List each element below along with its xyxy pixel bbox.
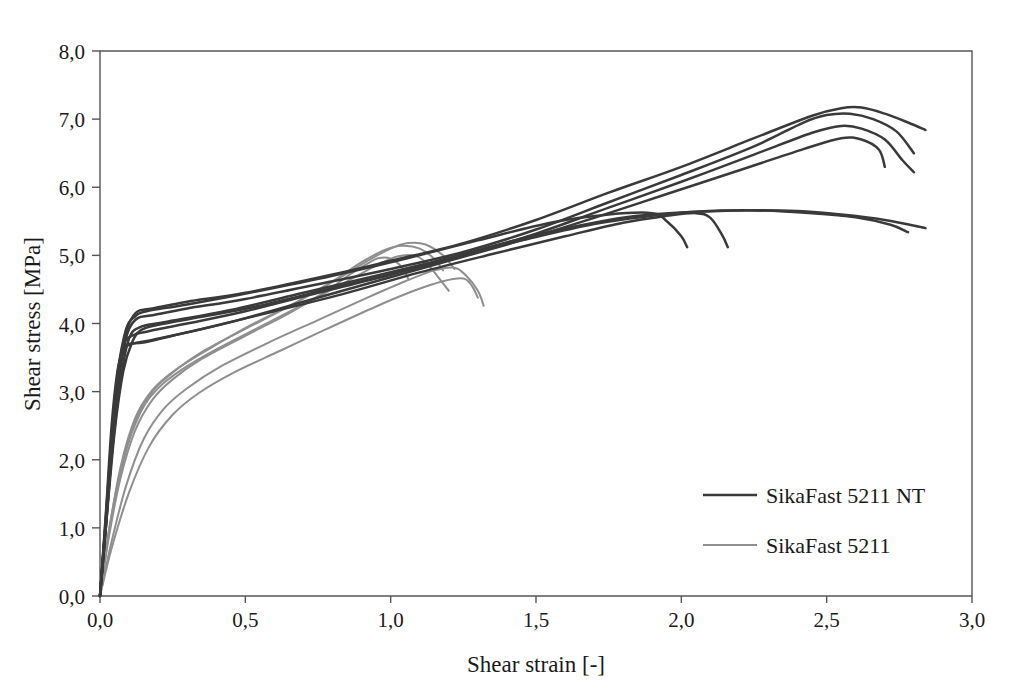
- axis-tick-marks: [92, 51, 972, 603]
- chart-canvas: 0,00,51,01,52,02,53,0 0,01,02,03,04,05,0…: [0, 0, 1022, 700]
- y-axis-tick-labels: 0,01,02,03,04,05,06,07,08,0: [59, 40, 85, 609]
- y-tick-label: 3,0: [59, 381, 85, 405]
- x-tick-label: 2,0: [668, 608, 694, 632]
- chart-legend: SikaFast 5211 NT SikaFast 5211: [703, 483, 926, 558]
- y-tick-label: 5,0: [59, 244, 85, 268]
- x-tick-label: 1,0: [378, 608, 404, 632]
- y-tick-label: 8,0: [59, 40, 85, 64]
- legend-label-sikafast-5211: SikaFast 5211: [766, 533, 890, 558]
- curve-nt-4: [100, 137, 885, 596]
- curve-nt-1: [100, 107, 925, 596]
- series-sikafast-5211-nt-curves: [100, 107, 925, 596]
- x-tick-label: 0,0: [87, 608, 113, 632]
- curve-nt-2: [100, 113, 914, 596]
- y-tick-label: 6,0: [59, 176, 85, 200]
- y-tick-label: 7,0: [59, 108, 85, 132]
- curve-nt-7: [100, 213, 687, 596]
- curve-nt-3: [100, 126, 914, 596]
- y-tick-label: 0,0: [59, 585, 85, 609]
- y-tick-label: 2,0: [59, 449, 85, 473]
- y-axis-title: Shear stress [MPa]: [20, 237, 45, 411]
- curve-s-1: [100, 246, 443, 596]
- x-tick-label: 2,5: [814, 608, 840, 632]
- y-tick-label: 1,0: [59, 517, 85, 541]
- x-axis-title: Shear strain [-]: [467, 652, 605, 677]
- legend-label-sikafast-5211-nt: SikaFast 5211 NT: [766, 483, 926, 508]
- y-tick-label: 4,0: [59, 313, 85, 337]
- chart-figure: 0,00,51,01,52,02,53,0 0,01,02,03,04,05,0…: [0, 0, 1022, 700]
- x-tick-label: 3,0: [959, 608, 985, 632]
- plot-frame: [100, 51, 972, 596]
- x-tick-label: 0,5: [232, 608, 258, 632]
- x-axis-tick-labels: 0,00,51,01,52,02,53,0: [87, 608, 985, 632]
- x-tick-label: 1,5: [523, 608, 549, 632]
